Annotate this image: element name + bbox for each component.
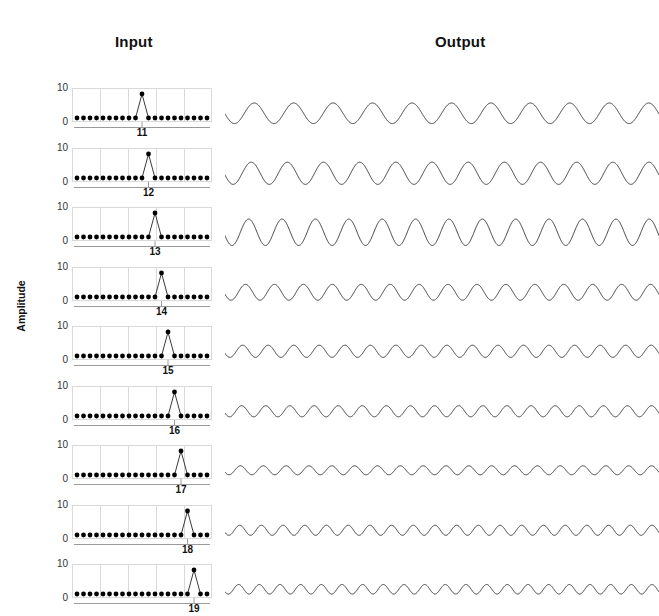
y-tick-group: 100: [40, 445, 68, 479]
y-tick-10: 10: [57, 500, 68, 510]
y-tick-10: 10: [57, 321, 68, 331]
x-tick-label: 17: [166, 484, 196, 495]
plot-row: 10011: [0, 82, 659, 142]
output-waveform-plot: [225, 265, 659, 309]
y-tick-0: 0: [62, 177, 68, 187]
plot-row: 10014: [0, 261, 659, 321]
output-waveform-plot: [225, 205, 659, 249]
y-tick-0: 0: [62, 474, 68, 484]
y-tick-0: 0: [62, 296, 68, 306]
y-tick-0: 0: [62, 236, 68, 246]
y-tick-0: 0: [62, 593, 68, 603]
input-stem-plot: [72, 505, 212, 539]
y-tick-group: 100: [40, 505, 68, 539]
input-stem-plot: [72, 267, 212, 301]
y-tick-group: 100: [40, 88, 68, 122]
y-tick-group: 100: [40, 386, 68, 420]
input-stem-plot: [72, 386, 212, 420]
plot-row: 10017: [0, 439, 659, 499]
y-tick-0: 0: [62, 117, 68, 127]
x-tick-label: 15: [153, 365, 183, 376]
y-tick-0: 0: [62, 415, 68, 425]
plot-row: 10018: [0, 499, 659, 559]
output-waveform-plot: [225, 86, 659, 130]
y-tick-group: 100: [40, 207, 68, 241]
x-tick-label: 14: [147, 306, 177, 317]
y-tick-group: 100: [40, 267, 68, 301]
output-waveform-plot: [225, 384, 659, 428]
y-tick-10: 10: [57, 381, 68, 391]
y-tick-10: 10: [57, 262, 68, 272]
output-waveform-plot: [225, 562, 659, 606]
output-waveform-plot: [225, 443, 659, 487]
plot-row: 10016: [0, 380, 659, 440]
y-tick-group: 100: [40, 148, 68, 182]
plot-row: 10012: [0, 142, 659, 202]
input-stem-plot: [72, 445, 212, 479]
plot-row: 10013: [0, 201, 659, 261]
y-tick-10: 10: [57, 440, 68, 450]
x-tick-label: 16: [160, 425, 190, 436]
y-tick-10: 10: [57, 143, 68, 153]
y-tick-10: 10: [57, 559, 68, 569]
input-stem-plot: [72, 326, 212, 360]
y-tick-group: 100: [40, 564, 68, 598]
plot-row: 10015: [0, 320, 659, 380]
y-tick-10: 10: [57, 202, 68, 212]
y-tick-group: 100: [40, 326, 68, 360]
input-stem-plot: [72, 564, 212, 598]
x-tick-label: 12: [134, 187, 164, 198]
output-waveform-plot: [225, 324, 659, 368]
y-tick-10: 10: [57, 83, 68, 93]
column-title-input: Input: [115, 33, 153, 50]
x-tick-label: 11: [127, 127, 157, 138]
plot-row: 10019: [0, 558, 659, 616]
column-title-output: Output: [435, 33, 485, 50]
output-waveform-plot: [225, 146, 659, 190]
input-stem-plot: [72, 207, 212, 241]
x-tick-label: 18: [173, 544, 203, 555]
y-tick-0: 0: [62, 534, 68, 544]
input-stem-plot: [72, 148, 212, 182]
output-waveform-plot: [225, 503, 659, 547]
x-tick-label: 13: [140, 246, 170, 257]
y-tick-0: 0: [62, 355, 68, 365]
input-stem-plot: [72, 88, 212, 122]
x-tick-label: 19: [179, 603, 209, 614]
